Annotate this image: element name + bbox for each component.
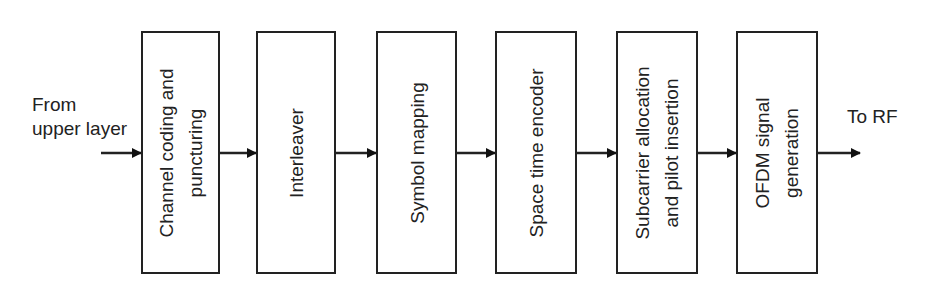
output-label: To RF	[847, 105, 898, 129]
block-label-line: Space time encoder	[522, 68, 551, 237]
block-label-line: Interleaver	[282, 108, 311, 198]
block-label: Subcarrier allocation and pilot insertio…	[628, 66, 686, 239]
input-label: From upper layer	[32, 93, 127, 141]
block-label: Interleaver	[282, 108, 311, 198]
block-label-line: OFDM signal	[748, 97, 777, 208]
block-label: Symbol mapping	[402, 82, 431, 224]
block-symbol-mapping: Symbol mapping	[376, 31, 457, 274]
block-label-line: generation	[777, 97, 806, 208]
block-ofdm-signal-generation: OFDM signal generation	[736, 31, 818, 274]
block-label-line: and pilot insertion	[657, 66, 686, 239]
block-label: Channel coding and puncturing	[152, 68, 210, 237]
block-label: OFDM signal generation	[748, 97, 806, 208]
block-label-line: Symbol mapping	[402, 82, 431, 224]
block-channel-coding: Channel coding and puncturing	[141, 31, 220, 274]
input-label-line-1: From	[32, 93, 127, 117]
block-space-time-encoder: Space time encoder	[495, 31, 577, 274]
block-label-line: Channel coding and	[152, 68, 181, 237]
block-label-line: puncturing	[181, 68, 210, 237]
block-label-line: Subcarrier allocation	[628, 66, 657, 239]
input-label-line-2: upper layer	[32, 117, 127, 141]
block-label: Space time encoder	[522, 68, 551, 237]
block-interleaver: Interleaver	[256, 31, 336, 274]
block-subcarrier-allocation: Subcarrier allocation and pilot insertio…	[616, 31, 698, 274]
diagram-canvas: From upper layer Channel coding and punc…	[0, 0, 936, 291]
